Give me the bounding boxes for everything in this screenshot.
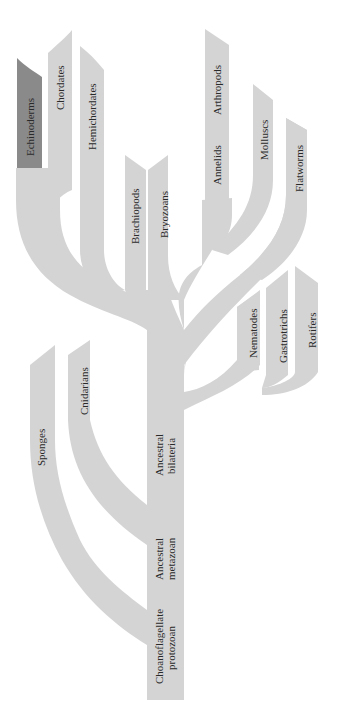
label-gastrotrichs: Gastrotrichs (277, 309, 289, 363)
label-choanoflagellate-2: protozoan (165, 626, 177, 670)
label-flatworms: Flatworms (293, 145, 305, 192)
label-sponges: Sponges (35, 429, 47, 466)
label-brachiopods: Brachiopods (129, 188, 141, 244)
label-hemichordates: Hemichordates (86, 83, 98, 150)
label-annelids: Annelids (211, 145, 223, 185)
hemichordates-branch (80, 46, 125, 295)
label-echinoderms: Echinoderms (24, 98, 36, 156)
label-choanoflagellate-1: Choanoflagellate (153, 609, 165, 684)
label-ancestral-bilateria-1: Ancestral (153, 434, 165, 476)
label-nematodes: Nematodes (247, 309, 259, 358)
label-arthropods: Arthropods (211, 65, 223, 115)
label-ancestral-bilateria-2: bilateria (165, 438, 177, 474)
label-rotifers: Rotifers (306, 313, 318, 348)
label-ancestral-metazoan-2: metazoan (165, 537, 177, 580)
phylogenetic-tree: Echinoderms Chordates Hemichordates Brac… (0, 0, 339, 707)
label-cnidarians: Cnidarians (78, 367, 90, 415)
tree-branches (16, 29, 318, 700)
label-bryozoans: Bryozoans (158, 191, 170, 238)
label-ancestral-metazoan-1: Ancestral (153, 538, 165, 580)
label-chordates: Chordates (54, 65, 66, 110)
label-molluscs: Molluscs (258, 120, 270, 160)
